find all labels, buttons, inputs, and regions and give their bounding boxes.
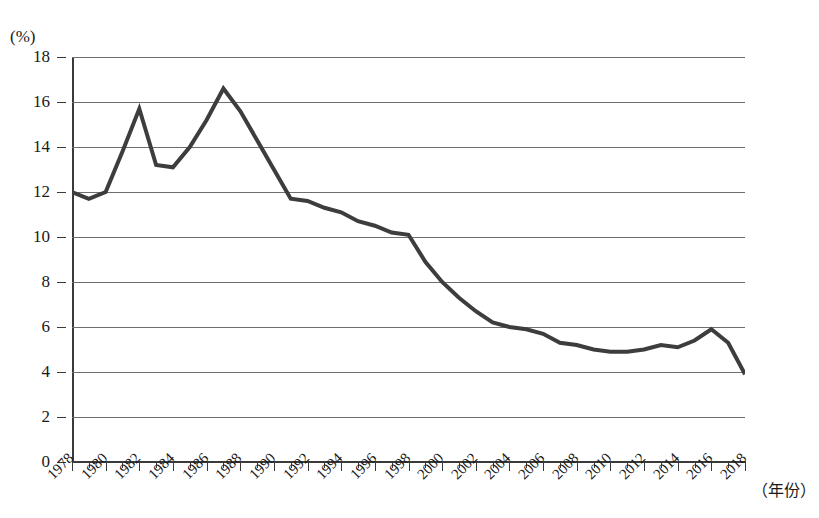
x-axis-tick-labels: 1978198019821984198619881990199219941996… <box>0 463 819 518</box>
data-series-line <box>72 57 745 462</box>
y-axis-tick <box>57 57 66 58</box>
y-axis-tick-label: 10 <box>33 227 50 247</box>
y-axis-tick-label: 6 <box>42 317 51 337</box>
chart-figure: (%) 024681012141618 19781980198219841986… <box>0 0 819 518</box>
y-axis-tick-label: 18 <box>33 47 50 67</box>
y-axis-tick-label: 4 <box>42 362 51 382</box>
y-axis-tick <box>57 237 66 238</box>
y-axis-tick <box>57 327 66 328</box>
y-axis-tick-label: 12 <box>33 182 50 202</box>
plot-area <box>72 57 745 462</box>
y-axis-tick-labels: 024681012141618 <box>0 57 64 463</box>
y-axis-tick <box>57 372 66 373</box>
y-axis-tick <box>57 102 66 103</box>
y-axis-tick <box>57 282 66 283</box>
x-axis-title: （年份） <box>752 477 816 501</box>
y-axis-tick <box>57 192 66 193</box>
y-axis-tick-label: 14 <box>33 137 50 157</box>
y-axis-tick <box>57 147 66 148</box>
y-axis-tick-label: 8 <box>42 272 51 292</box>
y-axis-tick-label: 16 <box>33 92 50 112</box>
y-axis-tick-label: 2 <box>42 407 51 427</box>
y-axis-unit-label: (%) <box>10 28 35 45</box>
y-axis-tick <box>57 417 66 418</box>
